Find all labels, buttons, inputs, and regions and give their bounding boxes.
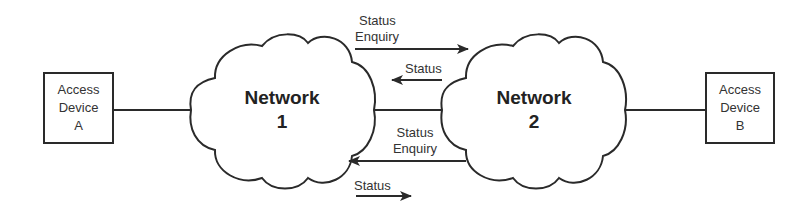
access-device-b: Access Device B	[705, 72, 775, 144]
bottom-enquiry-line1: Status	[385, 125, 445, 141]
top-enquiry-label: Status Enquiry	[355, 13, 399, 45]
network-2-name: Network	[484, 86, 584, 110]
device-a-line3: A	[74, 117, 83, 135]
network-1-label: Network 1	[232, 86, 332, 134]
top-enquiry-line1: Status	[355, 13, 399, 29]
network-1-number: 1	[232, 110, 332, 134]
device-a-line1: Access	[58, 81, 100, 99]
top-enquiry-line2: Enquiry	[355, 29, 399, 45]
bottom-enquiry-line2: Enquiry	[385, 141, 445, 157]
bottom-status-text: Status	[354, 178, 391, 193]
bottom-status-label: Status	[354, 178, 391, 194]
device-b-line3: B	[736, 117, 745, 135]
bottom-enquiry-label: Status Enquiry	[385, 125, 445, 157]
diagram-canvas	[0, 0, 810, 214]
top-status-label: Status	[405, 61, 442, 77]
device-b-line2: Device	[720, 99, 760, 117]
device-b-line1: Access	[719, 81, 761, 99]
network-1-name: Network	[232, 86, 332, 110]
network-2-label: Network 2	[484, 86, 584, 134]
access-device-a: Access Device A	[43, 72, 114, 144]
top-status-text: Status	[405, 61, 442, 76]
network-2-number: 2	[484, 110, 584, 134]
device-a-line2: Device	[59, 99, 99, 117]
